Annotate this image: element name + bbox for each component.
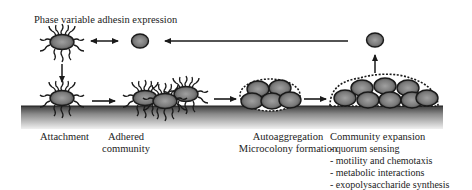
surface-substrate [21, 106, 443, 129]
stage-label-autoaggregation: Autoaggregation Microcolony formation [234, 131, 342, 155]
stage-label-text: Community expansion [330, 131, 449, 143]
bullet-exopolysaccharide-synthesis: - exopolysaccharide synthesis [330, 179, 449, 190]
stage-label-text: community [96, 143, 156, 155]
stage-label-text: Autoaggregation [234, 131, 342, 143]
stage-label-text: Attachment [40, 131, 89, 142]
biofilm-formation-diagram: Phase variable adhesin expression Attach… [0, 0, 472, 190]
mature-biofilm-cluster [330, 74, 438, 108]
bullet-metabolic-interactions: - metabolic interactions [330, 167, 449, 179]
bullet-quorum-sensing: - quorum sensing [330, 143, 449, 155]
stage-label-attachment: Attachment [40, 131, 89, 143]
title-phase-variable-adhesin: Phase variable adhesin expression [34, 14, 177, 26]
stage-label-text: Adhered [96, 131, 156, 143]
stage-label-community-expansion: Community expansion - quorum sensing - m… [330, 131, 449, 190]
bullet-motility-chemotaxis: - motility and chemotaxis [330, 155, 449, 167]
microcolony-cluster [240, 79, 301, 111]
stage-label-text: Microcolony formation [234, 143, 342, 155]
stage-label-adhered-community: Adhered community [96, 131, 156, 155]
